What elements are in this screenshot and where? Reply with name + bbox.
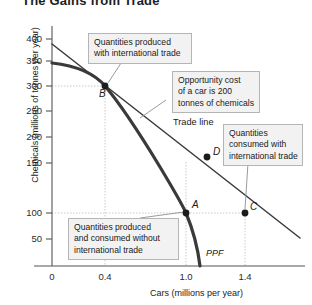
point-label-b: B [99,88,106,99]
leader-to-trade-line [140,100,166,118]
callout-produced-with-trade: Quantities produced with international t… [88,33,192,64]
trade-line-label: Trade line [173,117,214,127]
point-c [242,210,249,217]
x-tick-1-0: 1.0 [171,271,201,282]
point-label-d: D [213,146,220,157]
ppf-label: PPF [206,248,224,258]
figure-gains-from-trade: The Gains from Trade [0,0,312,305]
point-a [183,210,190,217]
x-axis-title: Cars (millions per year) [150,288,243,298]
x-tick-0: 0 [37,271,67,282]
callout-opportunity-cost: Opportunity cost of a car is 200 tonnes … [172,71,260,113]
x-tick-1-4: 1.4 [230,271,260,282]
callout-without-trade: Quantities produced and consumed without… [68,218,179,260]
y-tick-100: 100 [16,207,42,218]
point-label-a: A [192,199,199,210]
y-axis-title: Chemicals (millions of tonnes per year) [30,15,40,195]
point-label-c: C [250,201,257,212]
y-tick-50: 50 [16,233,42,244]
point-d [204,154,211,161]
x-tick-0-4: 0.4 [90,271,120,282]
callout-consumed-with-trade: Quantities consumed with international t… [223,124,303,166]
y-tick-marks [46,39,52,239]
leader-to-c [245,163,248,209]
